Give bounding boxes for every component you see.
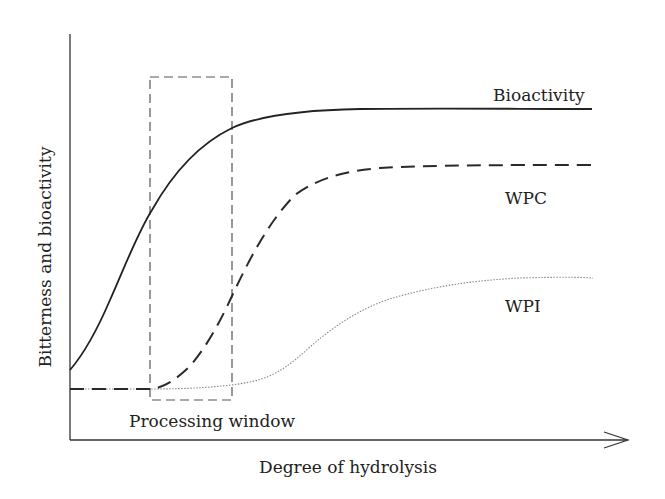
bioactivity-curve xyxy=(70,109,592,370)
y-axis-label: Bitterness and bioactivity xyxy=(35,146,55,367)
processing-window-label: Processing window xyxy=(129,411,296,431)
wpi-curve xyxy=(70,277,593,389)
bioactivity-label: Bioactivity xyxy=(493,85,585,105)
hydrolysis-figure: Bioactivity WPC WPI Processing window De… xyxy=(0,0,665,499)
wpc-label: WPC xyxy=(505,188,547,208)
wpi-label: WPI xyxy=(505,296,541,316)
processing-window-box xyxy=(150,77,232,400)
x-axis-label: Degree of hydrolysis xyxy=(259,457,437,477)
